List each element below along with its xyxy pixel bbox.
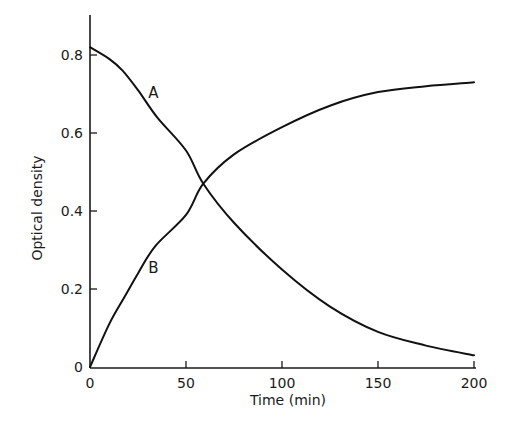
x-tick-label: 50	[177, 375, 195, 391]
series-label-a: A	[148, 84, 159, 102]
curve-b	[90, 82, 474, 367]
y-axis-title: Optical density	[29, 155, 45, 260]
axes	[90, 15, 476, 368]
x-tick-label: 150	[365, 375, 392, 391]
y-tick-label: 0.8	[61, 47, 83, 63]
x-axis-ticks: 050100150200	[86, 361, 488, 391]
x-tick-label: 200	[461, 375, 488, 391]
x-axis-title: Time (min)	[249, 392, 326, 408]
line-chart: 050100150200 00.20.40.60.8 AB Time (min)…	[0, 0, 512, 443]
x-tick-label: 0	[86, 375, 95, 391]
series-label-b: B	[148, 259, 158, 277]
y-tick-label: 0.6	[61, 125, 83, 141]
y-tick-label: 0.2	[61, 281, 83, 297]
y-tick-label: 0.4	[61, 203, 83, 219]
y-tick-label: 0	[74, 359, 83, 375]
x-tick-label: 100	[269, 375, 296, 391]
y-axis-ticks: 00.20.40.60.8	[61, 47, 97, 375]
